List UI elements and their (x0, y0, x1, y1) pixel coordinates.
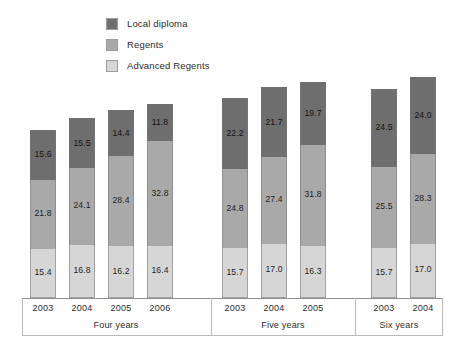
bar-value-label: 32.8 (148, 189, 172, 198)
bar-segment-local: 15.6 (30, 130, 56, 180)
bar-segment-advanced: 15.7 (222, 248, 248, 298)
bar-value-label: 24.8 (223, 204, 247, 213)
bar-value-label: 19.7 (301, 109, 325, 118)
bar-value-label: 17.0 (411, 265, 435, 274)
bar-segment-local: 14.4 (108, 110, 134, 156)
bar-value-label: 16.3 (301, 267, 325, 276)
bar-segment-regents: 24.8 (222, 169, 248, 248)
x-axis-tick-label: 2005 (293, 303, 333, 313)
x-axis-tick-label: 2003 (215, 303, 255, 313)
bar-segment-regents: 25.5 (371, 167, 397, 248)
group-separator-1 (355, 298, 356, 336)
bar-segment-advanced: 17.0 (261, 244, 287, 298)
bar-value-label: 21.8 (31, 209, 55, 218)
bar-segment-advanced: 15.7 (371, 248, 397, 298)
stacked-bar: 15.524.116.8 (69, 118, 95, 298)
x-axis-tick-label: 2006 (140, 303, 180, 313)
x-axis-tick-label: 2004 (254, 303, 294, 313)
bar-segment-advanced: 16.8 (69, 245, 95, 299)
chart-plot-area: 15.621.815.4200315.524.116.8200414.428.4… (0, 0, 461, 352)
bar-segment-local: 11.8 (147, 104, 173, 142)
bar-segment-regents: 21.8 (30, 180, 56, 249)
bar-value-label: 22.2 (223, 129, 247, 138)
bar-segment-regents: 28.4 (108, 156, 134, 246)
bar-value-label: 15.7 (372, 268, 396, 277)
bar-value-label: 31.8 (301, 190, 325, 199)
stacked-bar: 24.028.317.0 (410, 77, 436, 298)
bar-value-label: 15.4 (31, 268, 55, 277)
bar-value-label: 14.4 (109, 129, 133, 138)
bar-value-label: 21.7 (262, 118, 286, 127)
bar-segment-local: 22.2 (222, 98, 248, 169)
stacked-bar: 21.727.417.0 (261, 87, 287, 298)
bar-value-label: 15.7 (223, 268, 247, 277)
bar-value-label: 27.4 (262, 195, 286, 204)
x-axis-tick-label: 2004 (403, 303, 443, 313)
stacked-bar: 19.731.816.3 (300, 82, 326, 298)
bar-value-label: 16.4 (148, 266, 172, 275)
group-label-2: Six years (354, 320, 444, 330)
bar-segment-regents: 32.8 (147, 141, 173, 245)
group-label-0: Four years (71, 320, 161, 330)
bar-segment-regents: 31.8 (300, 145, 326, 246)
bar-value-label: 24.1 (70, 201, 94, 210)
bar-value-label: 16.2 (109, 267, 133, 276)
bar-value-label: 17.0 (262, 265, 286, 274)
bar-segment-local: 15.5 (69, 118, 95, 167)
group-label-1: Five years (238, 320, 328, 330)
bar-segment-advanced: 17.0 (410, 244, 436, 298)
stacked-bar: 11.832.816.4 (147, 104, 173, 298)
group-separator-0 (211, 298, 212, 336)
bar-segment-advanced: 16.4 (147, 246, 173, 298)
stacked-bar: 14.428.416.2 (108, 110, 134, 298)
bar-value-label: 25.5 (372, 202, 396, 211)
bar-segment-regents: 24.1 (69, 168, 95, 245)
bar-segment-advanced: 16.2 (108, 246, 134, 298)
stacked-bar: 22.224.815.7 (222, 98, 248, 298)
x-axis-tick-label: 2003 (364, 303, 404, 313)
bar-segment-local: 24.5 (371, 89, 397, 167)
bar-segment-regents: 28.3 (410, 154, 436, 244)
bar-segment-local: 21.7 (261, 87, 287, 156)
bar-segment-local: 19.7 (300, 82, 326, 145)
x-axis-tick-label: 2005 (101, 303, 141, 313)
bar-segment-advanced: 16.3 (300, 246, 326, 298)
bar-segment-regents: 27.4 (261, 157, 287, 244)
bar-value-label: 15.6 (31, 150, 55, 159)
stacked-bar: 24.525.515.7 (371, 89, 397, 298)
bar-value-label: 28.3 (411, 194, 435, 203)
bar-segment-local: 24.0 (410, 77, 436, 153)
x-axis-tick-label: 2004 (62, 303, 102, 313)
bar-value-label: 11.8 (148, 118, 172, 127)
bar-value-label: 24.5 (372, 123, 396, 132)
stacked-bar: 15.621.815.4 (30, 130, 56, 298)
bar-value-label: 24.0 (411, 111, 435, 120)
bar-value-label: 15.5 (70, 139, 94, 148)
x-axis-tick-label: 2003 (23, 303, 63, 313)
bar-segment-advanced: 15.4 (30, 249, 56, 298)
bar-value-label: 28.4 (109, 196, 133, 205)
bar-value-label: 16.8 (70, 266, 94, 275)
